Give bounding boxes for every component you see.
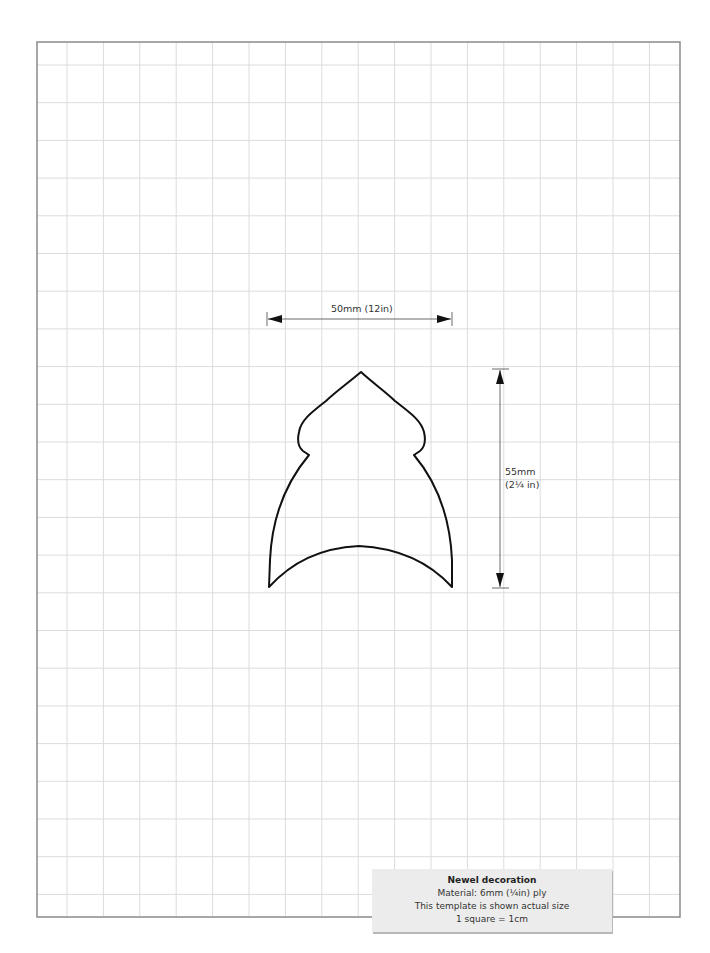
grid-lines (37, 42, 680, 917)
template-sheet: 50mm (12in) 55mm (2¼ in) Newel decoratio… (0, 0, 710, 953)
caption-scale-note: This template is shown actual size (372, 900, 612, 913)
caption-box: Newel decoration Material: 6mm (¼in) ply… (372, 869, 612, 932)
arrow-left-icon (268, 315, 282, 323)
caption-title: Newel decoration (372, 874, 612, 887)
height-mm-label: 55mm (505, 465, 539, 478)
caption-material: Material: 6mm (¼in) ply (372, 887, 612, 900)
caption-grid-note: 1 square = 1cm (372, 913, 612, 926)
height-dimension-label: 55mm (2¼ in) (505, 465, 539, 491)
arrow-right-icon (437, 315, 451, 323)
arrow-down-icon (496, 573, 504, 587)
width-dimension-label: 50mm (12in) (331, 302, 391, 315)
grid-drawing (0, 0, 710, 953)
arrow-up-icon (496, 370, 504, 384)
height-in-label: (2¼ in) (505, 478, 539, 491)
